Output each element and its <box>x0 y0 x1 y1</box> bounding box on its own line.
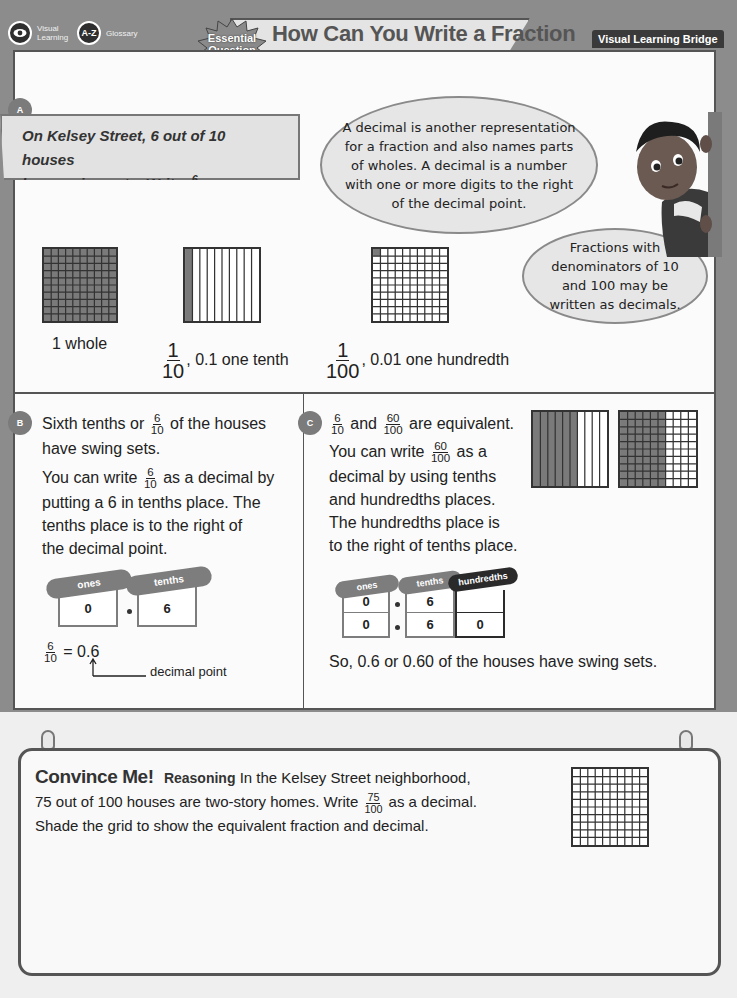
student-character-image <box>622 112 722 257</box>
b-p1-line2: have swing sets. <box>42 437 300 460</box>
whole-label: 1 whole <box>52 335 107 353</box>
hundredth-label: 1100, 0.01 one hundredth <box>324 340 509 381</box>
c-row2-ones: 0 <box>344 613 388 636</box>
c-p2-line3: and hundredths places. <box>329 488 519 511</box>
tenth-label-text: , 0.1 one tenth <box>186 351 288 368</box>
section-c-p2: You can write 60100 as a <box>329 440 519 465</box>
visual-learning-label-2: Learning <box>37 33 68 42</box>
convince-me-title: Convince Me! <box>35 766 154 787</box>
fraction-60-100: 60100 <box>383 413 402 437</box>
c-p1-mid: and <box>350 415 377 432</box>
section-b-badge: B <box>8 411 32 435</box>
b-p1-pre: Sixth tenths or <box>42 415 144 432</box>
fraction-1-100: 1100 <box>326 340 359 381</box>
convince-line-1: Convince Me! Reasoning In the Kelsey Str… <box>35 765 595 790</box>
b-p1-post: of the houses <box>170 415 266 432</box>
problem-line-1: On Kelsey Street, 6 out of 10 houses <box>22 124 278 172</box>
glossary-az-icon: A-Z <box>77 21 101 45</box>
fraction-6-10: 610 <box>44 641 57 665</box>
section-c-conclusion: So, 0.6 or 0.60 of the houses have swing… <box>329 650 657 673</box>
convince-me-box: Convince Me! Reasoning In the Kelsey Str… <box>18 748 721 976</box>
practice-label: Reasoning <box>164 770 236 786</box>
decimal-point-dot <box>127 609 132 614</box>
visual-learning-button[interactable]: Visual Learning <box>8 21 68 45</box>
six-tenths-model <box>531 410 609 488</box>
whole-grid-model <box>42 247 118 323</box>
c-p2-line5: to the right of tenths place. <box>329 534 519 557</box>
convince-line-2: 75 out of 100 houses are two-story homes… <box>35 790 595 814</box>
convince-line-2-post: as a decimal. <box>389 793 477 810</box>
section-c-text: 610 and 60100 are equivalent. You can wr… <box>329 412 519 557</box>
convince-line-2-pre: 75 out of 100 houses are two-story homes… <box>35 793 358 810</box>
visual-learning-label-1: Visual <box>37 24 68 33</box>
b-p2-line3: tenths place is to the right of <box>42 514 300 537</box>
section-c-p1: 610 and 60100 are equivalent. <box>329 412 519 437</box>
c-p2-pre: You can write <box>329 443 424 460</box>
b-p2-post: as a decimal by <box>163 469 274 486</box>
section-b-p1: Sixth tenths or 610 of the houses <box>42 412 300 437</box>
fraction-6-10: 610 <box>144 467 157 491</box>
c-row2-hundredths: 0 <box>457 613 503 636</box>
badge-line-1: Essential <box>200 32 264 44</box>
c-row1-hundredths <box>457 590 503 613</box>
binder-ring-icon <box>679 730 693 750</box>
binder-ring-icon <box>41 730 55 750</box>
eye-icon <box>8 21 32 45</box>
c-hundredths-column: 0 <box>455 590 505 638</box>
fraction-1-10: 110 <box>162 340 184 381</box>
sixty-hundredths-model <box>618 410 698 488</box>
c-tenths-column: 6 6 <box>405 590 455 638</box>
decimal-point-dot <box>395 602 400 607</box>
b-p2-line2: putting a 6 in tenths place. The <box>42 491 300 514</box>
c-p2-post: as a <box>457 443 487 460</box>
b-p2-pre: You can write <box>42 469 137 486</box>
c-row2-tenths: 6 <box>407 613 453 636</box>
glossary-label: Glossary <box>106 29 138 38</box>
c-row1-tenths: 6 <box>407 590 453 613</box>
section-b-text: Sixth tenths or 610 of the houses have s… <box>42 412 300 560</box>
fraction-60-100: 60100 <box>431 441 450 465</box>
c-p2-line4: The hundredths place is <box>329 511 519 534</box>
fraction-6-10: 610 <box>151 413 164 437</box>
hundredth-label-text: , 0.01 one hundredth <box>361 351 509 368</box>
fraction-6-10: 610 <box>331 413 344 437</box>
hundredths-model <box>371 247 449 323</box>
decimal-point-label: decimal point <box>150 664 227 679</box>
speech-bubble-decimal-definition: A decimal is another representation for … <box>320 96 598 234</box>
section-b-p2: You can write 610 as a decimal by <box>42 466 300 491</box>
visual-learning-bridge-label: Visual Learning Bridge <box>592 30 724 48</box>
glossary-button[interactable]: A-Z Glossary <box>77 21 138 45</box>
fraction-75-100: 75100 <box>364 792 382 815</box>
problem-statement: On Kelsey Street, 6 out of 10 houses hav… <box>0 114 300 180</box>
arrow-up-icon <box>88 656 148 680</box>
section-c-badge: C <box>298 411 322 435</box>
decimal-point-dot <box>395 625 400 630</box>
answer-area[interactable] <box>35 851 705 961</box>
b-p2-line4: the decimal point. <box>42 537 300 560</box>
shading-grid[interactable] <box>571 767 649 847</box>
convince-line-1-text: In the Kelsey Street neighborhood, <box>240 769 471 786</box>
tenth-label: 110, 0.1 one tenth <box>160 340 289 381</box>
convince-me-text: Convince Me! Reasoning In the Kelsey Str… <box>35 765 595 837</box>
c-p1-post: are equivalent. <box>409 415 514 432</box>
tenths-model <box>183 247 261 323</box>
title-line-1: How Can You Write a Fraction <box>272 20 575 47</box>
convince-line-3: Shade the grid to show the equivalent fr… <box>35 814 595 837</box>
c-p2-line2: decimal by using tenths <box>329 465 519 488</box>
